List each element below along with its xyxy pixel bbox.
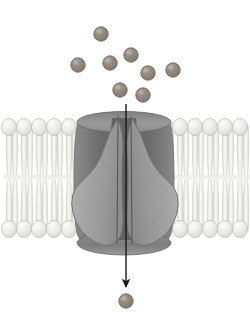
solute-molecule [71,58,85,72]
solute-molecule [136,88,150,102]
solute-molecule [166,63,180,77]
solute-molecule [103,56,117,70]
solute-molecule [119,294,133,308]
membrane-transport-diagram: Channel protein facilitated diffusion ac… [0,0,250,326]
solute-molecule [94,27,108,41]
diagram-canvas [0,0,250,326]
solute-group-intracellular [119,294,133,308]
solute-molecule [141,66,155,80]
channel-protein[interactable] [72,112,179,256]
solute-molecule [113,83,127,97]
solute-molecule [124,48,138,62]
